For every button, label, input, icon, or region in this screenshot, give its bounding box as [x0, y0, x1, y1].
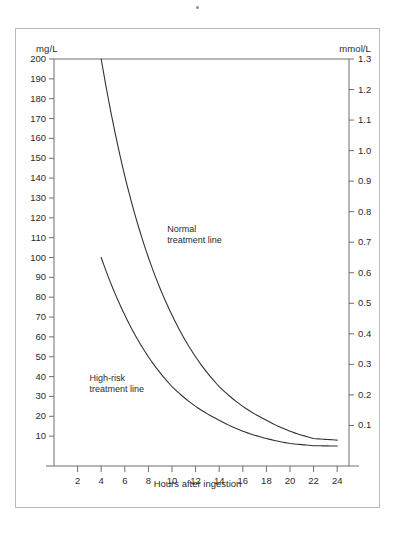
right-tick-label: 0.7: [358, 236, 371, 247]
x-axis-title: Hours after ingestion: [16, 478, 379, 489]
left-tick-label: 170: [16, 113, 46, 124]
high-risk-treatment-line-label: High-risk treatment line: [89, 373, 144, 395]
right-tick-label: 1.2: [358, 84, 371, 95]
normal-label-line1: Normal: [167, 224, 196, 234]
nomogram-figure: mg/L mmol/L 1020304050607080901001101201…: [15, 28, 380, 508]
highrisk-label-line2: treatment line: [89, 384, 144, 394]
right-tick-label: 0.6: [358, 267, 371, 278]
left-tick-label: 40: [16, 371, 46, 382]
axes-group: [46, 59, 359, 472]
normal-label-line2: treatment line: [167, 235, 222, 245]
left-tick-label: 20: [16, 410, 46, 421]
left-tick-label: 100: [16, 252, 46, 263]
right-tick-label: 0.3: [358, 358, 371, 369]
highrisk-label-line1: High-risk: [89, 373, 125, 383]
left-tick-label: 190: [16, 73, 46, 84]
left-tick-label: 60: [16, 331, 46, 342]
right-tick-label: 1.1: [358, 114, 371, 125]
plot-canvas: [16, 29, 381, 509]
page-speck: [196, 6, 199, 9]
left-tick-label: 50: [16, 351, 46, 362]
right-tick-label: 0.8: [358, 206, 371, 217]
right-tick-label: 1.0: [358, 145, 371, 156]
right-tick-label: 0.1: [358, 419, 371, 430]
left-tick-label: 200: [16, 53, 46, 64]
left-tick-label: 150: [16, 152, 46, 163]
left-tick-label: 10: [16, 430, 46, 441]
left-tick-label: 110: [16, 232, 46, 243]
right-tick-label: 0.2: [358, 389, 371, 400]
left-tick-label: 140: [16, 172, 46, 183]
right-tick-label: 1.3: [358, 53, 371, 64]
left-tick-label: 30: [16, 390, 46, 401]
left-tick-label: 70: [16, 311, 46, 322]
right-tick-label: 0.4: [358, 328, 371, 339]
right-tick-label: 0.5: [358, 297, 371, 308]
left-tick-label: 80: [16, 291, 46, 302]
left-tick-label: 180: [16, 93, 46, 104]
left-tick-label: 160: [16, 132, 46, 143]
high-risk-treatment-curve: [101, 258, 337, 447]
left-tick-label: 120: [16, 212, 46, 223]
left-tick-label: 130: [16, 192, 46, 203]
left-tick-label: 90: [16, 271, 46, 282]
normal-treatment-line-label: Normal treatment line: [167, 224, 222, 246]
right-tick-label: 0.9: [358, 175, 371, 186]
